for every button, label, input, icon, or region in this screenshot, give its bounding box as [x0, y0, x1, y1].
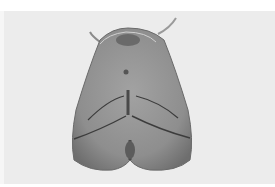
moth-illustration: [0, 0, 275, 187]
right-antenna: [158, 18, 176, 34]
abdomen-tip: [125, 141, 135, 159]
left-antenna: [90, 32, 100, 42]
thorax-spot: [124, 70, 129, 75]
thorax: [116, 34, 140, 46]
